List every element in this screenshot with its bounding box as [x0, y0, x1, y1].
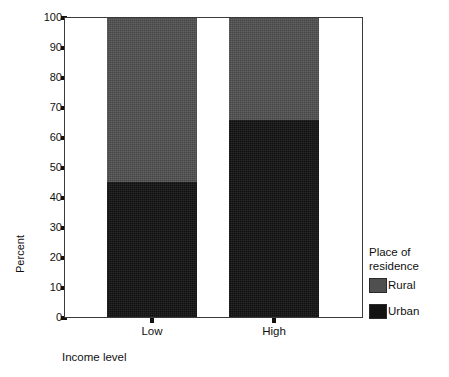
- bar-segment-low-rural[interactable]: [107, 18, 197, 182]
- y-tick-label-70: 70: [0, 102, 62, 113]
- y-tick-label-0: 0: [0, 312, 62, 323]
- plot-area: [64, 17, 363, 318]
- y-tick-label-90: 90: [0, 42, 62, 53]
- legend: Place of residence Rural Urban: [369, 246, 449, 330]
- x-tick-mark-high: [272, 318, 276, 323]
- y-tick-label-50: 50: [0, 162, 62, 173]
- legend-swatch-urban: [369, 304, 387, 319]
- bar-segment-high-rural[interactable]: [229, 18, 319, 120]
- bar-segment-high-urban[interactable]: [229, 120, 319, 317]
- legend-item-urban[interactable]: Urban: [369, 304, 449, 319]
- y-tick-label-10: 10: [0, 282, 62, 293]
- y-tick-label-60: 60: [0, 132, 62, 143]
- legend-item-rural[interactable]: Rural: [369, 278, 449, 293]
- y-tick-label-40: 40: [0, 192, 62, 203]
- legend-label-urban: Urban: [387, 304, 419, 319]
- x-tick-label-high: High: [219, 325, 329, 337]
- x-tick-mark-low: [150, 318, 154, 323]
- y-axis-title: Percent: [14, 219, 26, 289]
- legend-label-rural: Rural: [387, 278, 415, 293]
- y-tick-label-100: 100: [0, 12, 62, 23]
- legend-swatch-rural: [369, 278, 387, 293]
- bar-segment-low-urban[interactable]: [107, 182, 197, 317]
- y-tick-label-20: 20: [0, 252, 62, 263]
- x-axis-title: Income level: [62, 351, 127, 363]
- bar-low[interactable]: [107, 18, 197, 317]
- legend-title: Place of residence: [369, 246, 449, 273]
- y-tick-label-30: 30: [0, 222, 62, 233]
- bar-high[interactable]: [229, 18, 319, 317]
- y-tick-label-80: 80: [0, 72, 62, 83]
- x-tick-label-low: Low: [97, 325, 207, 337]
